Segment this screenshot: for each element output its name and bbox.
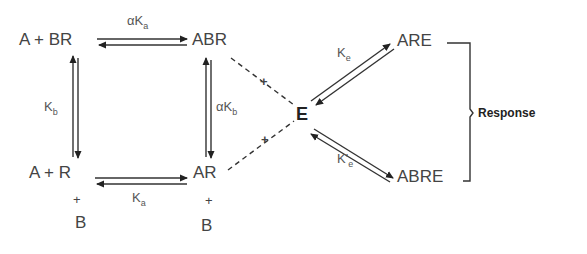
dashed-plus-upper: + [260, 75, 268, 88]
equilibrium-arrow-bottom [95, 178, 187, 184]
equilibrium-arrow-left [73, 56, 78, 158]
constant-ka: Ka [132, 191, 146, 208]
node-b-under-ar: B [201, 217, 212, 234]
constant-ke: Ke [337, 46, 351, 63]
node-abre: ABRE [397, 168, 443, 185]
constant-alpha-ka: αKa [127, 14, 148, 31]
equilibrium-arrow-right [206, 58, 211, 158]
plus-under-r: + [73, 193, 81, 206]
node-e: E [296, 105, 308, 123]
equilibrium-arrow-e-are [311, 44, 394, 105]
dashed-plus-lower: + [261, 133, 269, 146]
plus-under-ar: + [205, 194, 213, 207]
equilibrium-arrow-top [97, 39, 187, 45]
response-bracket [447, 43, 473, 181]
node-a-plus-r: A + R [29, 164, 71, 181]
node-are: ARE [397, 32, 432, 49]
response-label: Response [478, 107, 535, 119]
diagram-canvas: A + BR ABR A + R AR + + B B E ARE ABRE R… [0, 0, 587, 254]
diagram-lines [0, 0, 587, 254]
node-b-under-r: B [75, 214, 86, 231]
node-a-plus-br: A + BR [19, 31, 72, 48]
constant-alpha-kb: αKb [216, 100, 237, 117]
node-ar: AR [193, 164, 217, 181]
node-abr: ABR [192, 31, 227, 48]
constant-k-prime-e: K'e [337, 152, 353, 169]
constant-kb: Kb [44, 100, 58, 117]
